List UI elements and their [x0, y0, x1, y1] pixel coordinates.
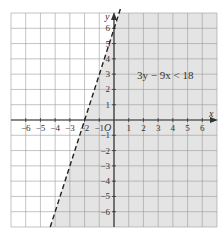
y-tick-label: 2 — [106, 84, 111, 94]
y-tick-label: −2 — [100, 146, 110, 156]
x-tick-label: 3 — [156, 123, 161, 133]
origin-label: O — [104, 122, 111, 133]
x-tick-label: −6 — [21, 123, 31, 133]
y-tick-label: −6 — [100, 207, 110, 217]
graph: −6−5−4−3−2−1123456−6−5−4−3−2−1123456 3y … — [0, 0, 223, 242]
x-tick-label: 6 — [200, 123, 205, 133]
y-tick-label: 1 — [106, 100, 111, 110]
y-tick-label: 6 — [106, 23, 111, 33]
y-axis-label: y — [104, 11, 110, 22]
y-tick-label: 5 — [106, 39, 111, 49]
y-tick-label: −4 — [100, 176, 110, 186]
x-axis-label: x — [208, 108, 214, 119]
x-tick-label: 5 — [185, 123, 190, 133]
x-tick-label: −5 — [36, 123, 46, 133]
x-tick-label: −4 — [50, 123, 60, 133]
inequality-label: 3y − 9x < 18 — [137, 69, 194, 81]
y-tick-label: 3 — [106, 69, 111, 79]
x-tick-label: 2 — [141, 123, 146, 133]
x-tick-label: 4 — [171, 123, 176, 133]
x-tick-label: 1 — [126, 123, 131, 133]
y-tick-label: −5 — [100, 191, 110, 201]
x-tick-label: −3 — [65, 123, 75, 133]
y-tick-label: −3 — [100, 161, 110, 171]
x-tick-label: −2 — [80, 123, 90, 133]
y-tick-label: 4 — [106, 54, 111, 64]
